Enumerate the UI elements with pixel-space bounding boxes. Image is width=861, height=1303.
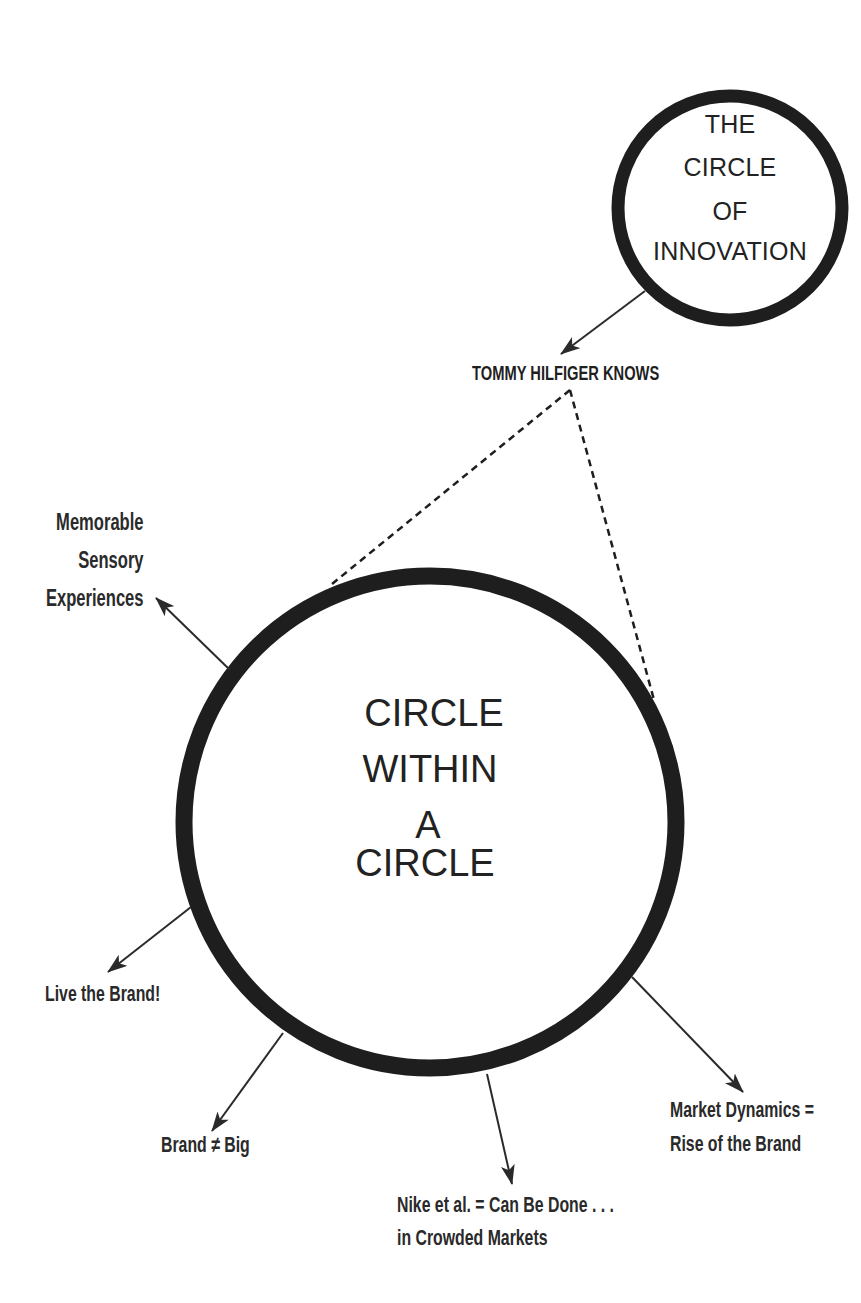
branch-label-line: Rise of the Brand — [670, 1127, 814, 1161]
innovation-title-line: INNOVATION — [610, 237, 850, 266]
brand-title-line: A — [296, 804, 560, 847]
branch-label-line: Memorable — [46, 503, 144, 541]
branch-label-brand-big: Brand ≠ Big — [161, 1128, 250, 1162]
branch-label-line: Sensory — [46, 541, 144, 579]
branch-label-nike: Nike et al. = Can Be Done . . . in Crowd… — [397, 1188, 614, 1254]
tommy-hilfiger-text: TOMMY HILFIGER KNOWS — [472, 358, 659, 388]
branch-label-line: Experiences — [46, 579, 144, 617]
arrow-brand-big — [212, 1033, 283, 1131]
brand-title-line: CIRCLE — [308, 692, 560, 735]
dashed-line-left — [332, 390, 570, 584]
branch-label-line: Live the Brand! — [45, 977, 160, 1011]
arrow-memorable — [156, 598, 230, 670]
branch-label-line: Brand ≠ Big — [161, 1128, 250, 1162]
innovation-title-line: THE — [610, 110, 850, 139]
branch-label-memorable: Memorable Sensory Experiences — [46, 503, 144, 617]
arrow-market — [632, 977, 743, 1092]
branch-label-live: Live the Brand! — [45, 977, 160, 1011]
arrow-nike — [487, 1074, 512, 1184]
arrow-innovation-to-tommy — [561, 291, 645, 354]
innovation-title-line: CIRCLE — [610, 153, 850, 182]
arrow-live — [108, 907, 191, 972]
brand-title-line: CIRCLE — [300, 842, 550, 885]
branch-label-line: Market Dynamics = — [670, 1093, 814, 1127]
brand-title-line: WITHIN — [300, 748, 560, 791]
branch-label-line: Nike et al. = Can Be Done . . . — [397, 1188, 614, 1221]
diagram-canvas: THE CIRCLE OF INNOVATION CIRCLE WITHIN A… — [0, 0, 861, 1303]
brand-circle-title: CIRCLE WITHIN A CIRCLE — [300, 690, 560, 900]
branch-label-line: in Crowded Markets — [397, 1221, 614, 1254]
innovation-title-line: OF — [610, 197, 850, 226]
tommy-hilfiger-label: TOMMY HILFIGER KNOWS — [472, 358, 659, 388]
innovation-circle-title: THE CIRCLE OF INNOVATION — [610, 100, 850, 280]
branch-label-market: Market Dynamics = Rise of the Brand — [670, 1093, 814, 1161]
